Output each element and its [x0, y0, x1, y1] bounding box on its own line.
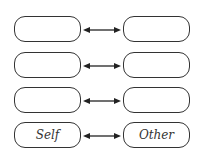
left-box-1	[14, 16, 81, 42]
left-box-2	[14, 52, 81, 78]
bidirectional-arrow-icon	[83, 96, 121, 106]
self-box: Self	[14, 122, 81, 148]
bidirectional-arrow-icon	[83, 61, 121, 71]
bidirectional-arrow-icon	[83, 25, 121, 35]
bidirectional-arrow-icon	[83, 131, 121, 141]
left-box-3	[14, 87, 81, 113]
right-box-2	[123, 52, 190, 78]
right-box-1	[123, 16, 190, 42]
right-box-3	[123, 87, 190, 113]
other-box: Other	[123, 122, 190, 148]
